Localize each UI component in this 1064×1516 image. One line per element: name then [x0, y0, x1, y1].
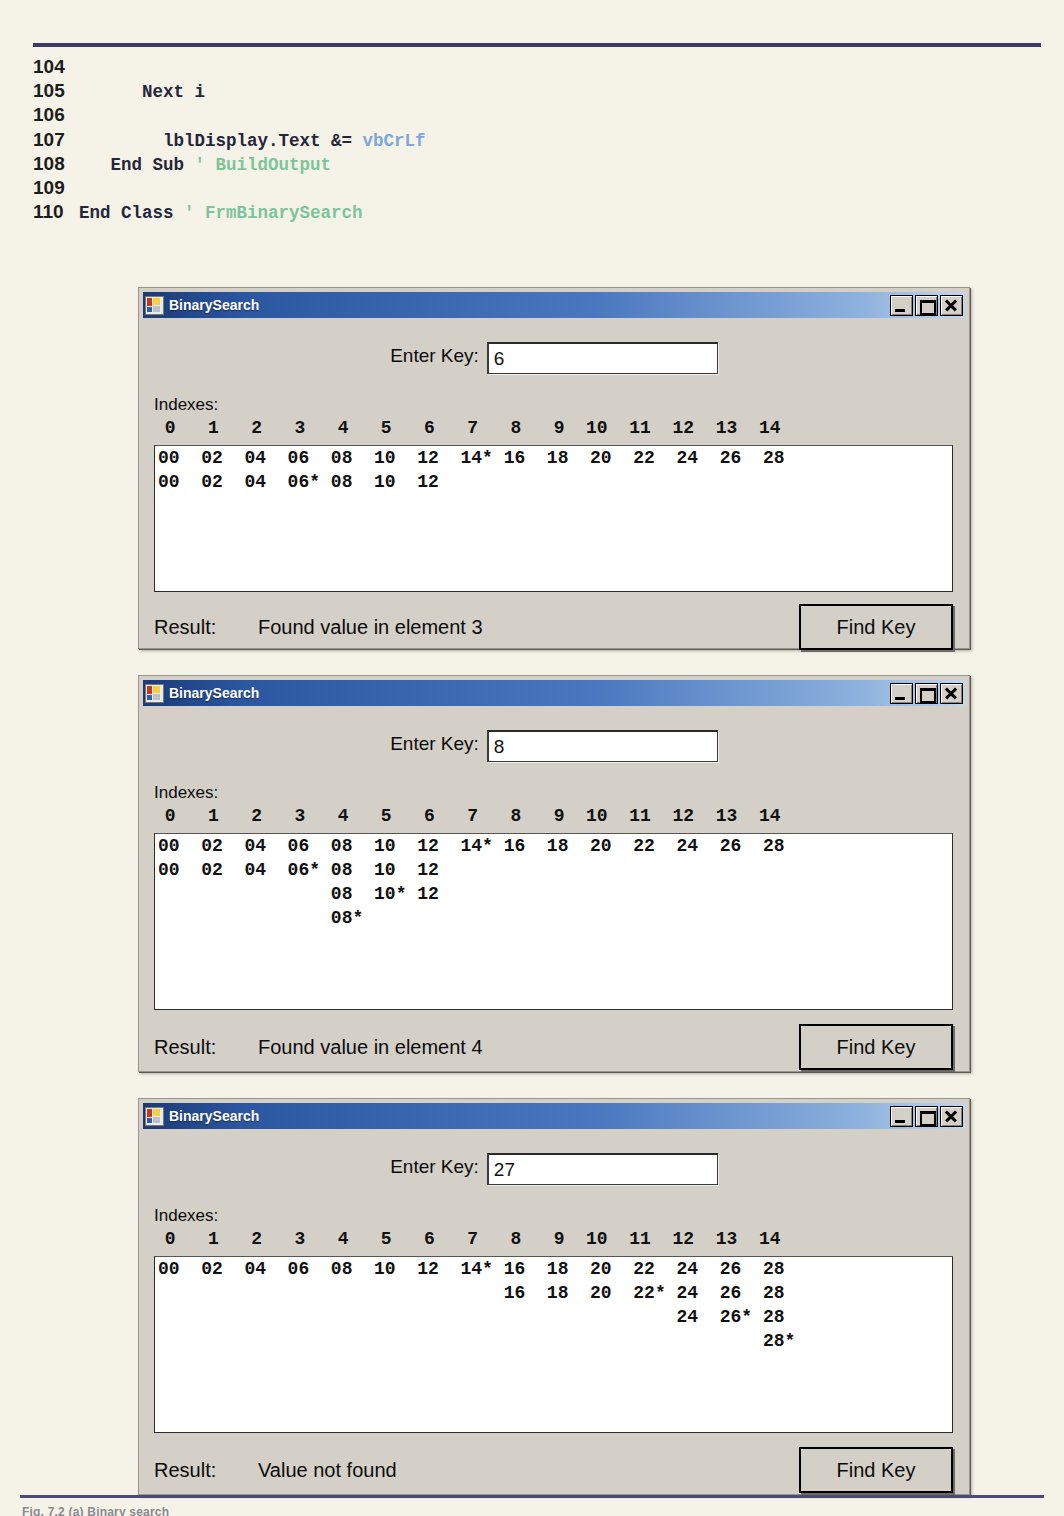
- find-key-button[interactable]: Find Key: [799, 604, 953, 650]
- code-token: ' FrmBinarySearch: [184, 203, 363, 223]
- window-3-titlebar[interactable]: BinarySearch: [143, 1103, 965, 1129]
- close-icon[interactable]: [940, 683, 963, 704]
- window-1-key-row: Enter Key: 6: [143, 342, 965, 374]
- find-key-button[interactable]: Find Key: [799, 1024, 953, 1070]
- window-2-title: BinarySearch: [169, 685, 259, 701]
- window-2-key-row: Enter Key: 8: [143, 730, 965, 762]
- minimize-icon[interactable]: [890, 683, 913, 704]
- enter-key-value: 27: [489, 1159, 515, 1181]
- enter-key-input[interactable]: 27: [487, 1153, 718, 1185]
- code-token: Next i: [79, 82, 205, 102]
- window-2: BinarySearch Enter Key: 8 Indexes: 0 1 2…: [138, 675, 970, 1072]
- code-line-number: 110: [33, 200, 79, 224]
- result-value: Found value in element 4: [258, 1036, 483, 1059]
- result-label: Result:: [154, 1036, 258, 1059]
- code-line: 110End Class ' FrmBinarySearch: [33, 200, 633, 224]
- display-row: 28*: [155, 1329, 952, 1353]
- display-row: 00 02 04 06* 08 10 12: [155, 858, 952, 882]
- indexes-label: Indexes:: [154, 395, 218, 415]
- minimize-icon[interactable]: [890, 295, 913, 316]
- code-line-number: 106: [33, 103, 79, 127]
- code-line: 105 Next i: [33, 79, 633, 103]
- result-value: Found value in element 3: [258, 616, 483, 639]
- indexes-label: Indexes:: [154, 1206, 218, 1226]
- code-token: lblDisplay.Text &=: [79, 131, 363, 151]
- window-3-result-row: Result: Value not found Find Key: [154, 1449, 953, 1491]
- code-line-number: 105: [33, 79, 79, 103]
- result-value: Value not found: [258, 1459, 397, 1482]
- code-line-number: 108: [33, 152, 79, 176]
- code-line-number: 104: [33, 55, 79, 79]
- book-page: 104105 Next i106107 lblDisplay.Text &= v…: [0, 0, 1064, 1516]
- result-label: Result:: [154, 616, 258, 639]
- window-1-titlebar[interactable]: BinarySearch: [143, 292, 965, 318]
- code-line-number: 109: [33, 176, 79, 200]
- display-row: 16 18 20 22* 24 26 28: [155, 1281, 952, 1305]
- code-token: vbCrLf: [363, 131, 426, 151]
- code-line-number: 107: [33, 128, 79, 152]
- binary-search-app-icon: [145, 296, 164, 315]
- window-1-title: BinarySearch: [169, 297, 259, 313]
- index-header-row: 0 1 2 3 4 5 6 7 8 9 10 11 12 13 14: [154, 1229, 954, 1253]
- binary-search-app-icon: [145, 684, 164, 703]
- top-horizontal-rule: [33, 43, 1041, 47]
- enter-key-label: Enter Key:: [390, 345, 479, 367]
- enter-key-label: Enter Key:: [390, 1156, 479, 1178]
- minimize-icon[interactable]: [890, 1106, 913, 1127]
- window-2-titlebar[interactable]: BinarySearch: [143, 680, 965, 706]
- code-line: 104: [33, 55, 633, 79]
- window-1-result-row: Result: Found value in element 3 Find Ke…: [154, 606, 953, 648]
- window-1-client: Enter Key: 6 Indexes: 0 1 2 3 4 5 6 7 8 …: [143, 320, 965, 644]
- display-row: 00 02 04 06* 08 10 12: [155, 470, 952, 494]
- maximize-icon[interactable]: [915, 683, 938, 704]
- bottom-horizontal-rule: [20, 1495, 1044, 1498]
- enter-key-input[interactable]: 8: [487, 730, 718, 762]
- close-icon[interactable]: [940, 1106, 963, 1127]
- window-3-display-listbox: 00 02 04 06 08 10 12 14* 16 18 20 22 24 …: [154, 1256, 953, 1433]
- find-key-button[interactable]: Find Key: [799, 1447, 953, 1493]
- display-row: 00 02 04 06 08 10 12 14* 16 18 20 22 24 …: [155, 834, 952, 858]
- window-2-display-listbox: 00 02 04 06 08 10 12 14* 16 18 20 22 24 …: [154, 833, 953, 1010]
- close-icon[interactable]: [940, 295, 963, 316]
- result-label: Result:: [154, 1459, 258, 1482]
- code-token: End Sub: [79, 155, 195, 175]
- window-1-display-listbox: 00 02 04 06 08 10 12 14* 16 18 20 22 24 …: [154, 445, 953, 592]
- code-line: 108 End Sub ' BuildOutput: [33, 152, 633, 176]
- index-header-row: 0 1 2 3 4 5 6 7 8 9 10 11 12 13 14: [154, 418, 954, 442]
- window-3-title: BinarySearch: [169, 1108, 259, 1124]
- code-token: End Class: [79, 203, 184, 223]
- window-2-result-row: Result: Found value in element 4 Find Ke…: [154, 1026, 953, 1068]
- maximize-icon[interactable]: [915, 1106, 938, 1127]
- code-listing: 104105 Next i106107 lblDisplay.Text &= v…: [33, 55, 633, 224]
- display-row: 24 26* 28: [155, 1305, 952, 1329]
- index-header-row: 0 1 2 3 4 5 6 7 8 9 10 11 12 13 14: [154, 806, 954, 830]
- display-row: 00 02 04 06 08 10 12 14* 16 18 20 22 24 …: [155, 446, 952, 470]
- enter-key-value: 6: [489, 348, 505, 370]
- window-2-client: Enter Key: 8 Indexes: 0 1 2 3 4 5 6 7 8 …: [143, 708, 965, 1067]
- window-1: BinarySearch Enter Key: 6 Indexes: 0 1 2…: [138, 287, 970, 649]
- window-3-key-row: Enter Key: 27: [143, 1153, 965, 1185]
- window-3-client: Enter Key: 27 Indexes: 0 1 2 3 4 5 6 7 8…: [143, 1131, 965, 1490]
- binary-search-app-icon: [145, 1107, 164, 1126]
- display-row: 08*: [155, 906, 952, 930]
- code-line: 107 lblDisplay.Text &= vbCrLf: [33, 128, 633, 152]
- code-token: ' BuildOutput: [195, 155, 332, 175]
- code-line: 109: [33, 176, 633, 200]
- figure-caption: Fig. 7.2 (a) Binary search: [22, 1505, 252, 1516]
- window-3: BinarySearch Enter Key: 27 Indexes: 0 1 …: [138, 1098, 970, 1495]
- enter-key-label: Enter Key:: [390, 733, 479, 755]
- maximize-icon[interactable]: [915, 295, 938, 316]
- code-line: 106: [33, 103, 633, 127]
- display-row: 00 02 04 06 08 10 12 14* 16 18 20 22 24 …: [155, 1257, 952, 1281]
- enter-key-input[interactable]: 6: [487, 342, 718, 374]
- window-1-controls: [890, 295, 965, 316]
- window-3-controls: [890, 1106, 965, 1127]
- window-2-controls: [890, 683, 965, 704]
- enter-key-value: 8: [489, 736, 505, 758]
- indexes-label: Indexes:: [154, 783, 218, 803]
- display-row: 08 10* 12: [155, 882, 952, 906]
